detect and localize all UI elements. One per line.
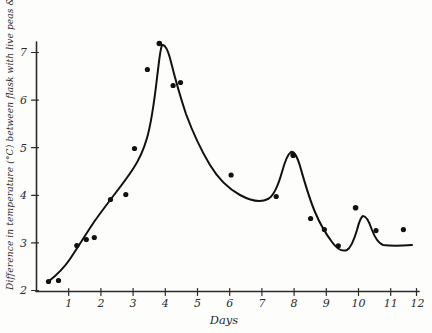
data-point [74,243,79,248]
data-point [123,192,128,197]
data-point [46,279,51,284]
data-point [171,83,176,88]
x-tick-label-6: 6 [226,297,233,310]
y-tick-label-6: 6 [20,94,27,107]
x-tick-label-2: 2 [96,297,104,310]
data-point [401,227,406,232]
data-point [353,205,359,211]
data-point [290,153,296,159]
x-tick-label-5: 5 [194,297,201,310]
chart-background [0,0,432,333]
data-point [132,146,137,151]
y-tick-label-3: 3 [20,237,27,250]
x-tick-label-7: 7 [258,297,265,310]
data-point [56,278,61,283]
x-tick-label-4: 4 [161,297,169,310]
temperature-difference-chart: 2 3 4 5 6 7 1 2 3 4 5 6 7 8 9 10 11 12 D… [0,0,432,333]
data-point [92,235,97,240]
data-point [322,227,327,232]
x-tick-label-3: 3 [130,297,137,310]
x-tick-label-11: 11 [384,297,398,310]
data-point [308,216,313,221]
data-point [145,67,150,72]
data-point [373,228,378,233]
data-point [84,237,89,242]
x-tick-label-8: 8 [291,297,298,310]
y-tick-label-2: 2 [19,284,27,297]
y-axis-label: Difference in temperature (°C) between f… [5,0,15,291]
x-tick-label-1: 1 [65,297,72,310]
y-tick-label-7: 7 [20,46,27,59]
data-point [108,197,113,202]
y-tick-label-4: 4 [19,189,27,202]
x-tick-label-10: 10 [352,297,366,310]
data-point [178,80,183,85]
data-point [274,194,279,199]
x-axis-label: Days [209,313,239,327]
x-tick-label-12: 12 [411,297,425,310]
data-point [229,172,234,177]
x-tick-label-9: 9 [323,297,330,310]
data-point [336,243,341,248]
y-tick-label-5: 5 [20,142,27,155]
data-point [157,41,163,47]
